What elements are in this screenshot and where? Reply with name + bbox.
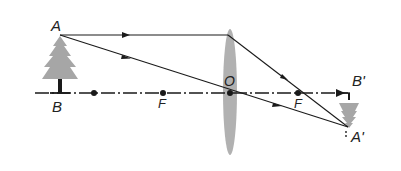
label-a: A xyxy=(50,17,61,34)
lens-ray-diagram: A B F O F B' A' xyxy=(0,0,401,171)
point-o xyxy=(227,90,233,96)
label-f-right: F xyxy=(294,96,303,111)
point-2f-left xyxy=(91,90,97,96)
ray-arrow-icon xyxy=(122,32,130,38)
central-ray xyxy=(60,35,348,127)
object-tree xyxy=(42,36,78,93)
label-b-prime: B' xyxy=(352,72,366,89)
label-a-prime: A' xyxy=(350,128,365,145)
label-b: B xyxy=(52,98,62,115)
ray-arrow-icon xyxy=(280,74,288,80)
label-f-left: F xyxy=(158,96,167,111)
label-o: O xyxy=(224,73,235,89)
